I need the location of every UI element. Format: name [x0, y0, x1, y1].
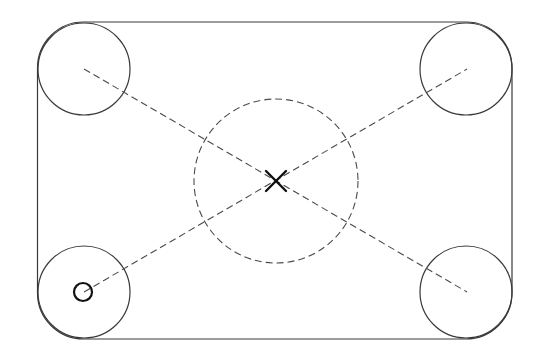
diagram-canvas	[0, 0, 541, 358]
center-cross-icon	[266, 171, 286, 191]
origin-marker-circle	[74, 283, 92, 301]
